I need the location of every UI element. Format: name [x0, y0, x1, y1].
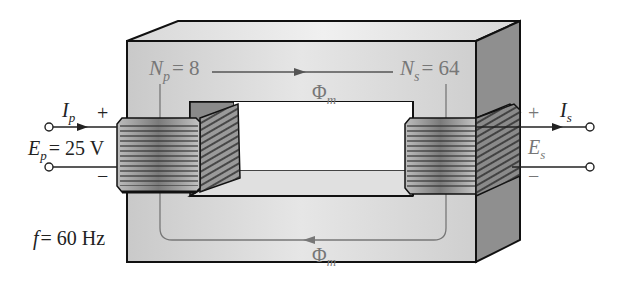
primary-current-label: Ip	[61, 99, 76, 125]
secondary-terminal-bottom	[586, 163, 594, 171]
core-window	[234, 102, 413, 170]
secondary-current-arrow	[552, 123, 563, 131]
primary-plus: +	[97, 102, 108, 124]
transformer-diagram: Ip + Ep= 25 V − Np= 8 Ns= 64 Φm Φm + Is …	[0, 0, 622, 283]
secondary-terminal-top	[586, 123, 594, 131]
primary-minus: −	[97, 165, 108, 187]
secondary-coil	[405, 104, 520, 196]
secondary-current-label: Is	[559, 99, 572, 125]
secondary-voltage-label: Es	[527, 136, 545, 162]
core-top-face	[127, 21, 520, 41]
secondary-minus: −	[528, 165, 539, 187]
secondary-turns-label: Ns= 64	[399, 56, 460, 84]
primary-current-arrow	[77, 123, 88, 131]
primary-voltage-label: Ep= 25 V	[27, 137, 105, 163]
secondary-plus: +	[528, 102, 539, 124]
frequency-label: f= 60 Hz	[33, 227, 105, 250]
primary-turns-label: Np= 8	[148, 56, 200, 84]
primary-terminal-top	[45, 123, 53, 131]
primary-terminal-bottom	[45, 163, 53, 171]
